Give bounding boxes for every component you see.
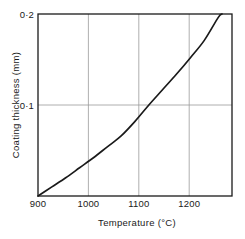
- x-tick-label-1000: 1000: [77, 198, 99, 209]
- y-axis-title: Coating thickness (mm): [10, 52, 21, 158]
- x-tick-label-1200: 1200: [178, 198, 200, 209]
- y-tick-label-0.2: 0·2: [20, 9, 34, 20]
- y-tick-label-0.1: 0·1: [20, 100, 34, 111]
- x-tick-label-900: 900: [30, 198, 46, 209]
- coating-thickness-line-chart: 0·2 0·1 900 1000 1100 1200 Temperature (…: [0, 0, 245, 239]
- x-tick-label-1100: 1100: [128, 198, 149, 209]
- x-axis-title: Temperature (°C): [98, 217, 176, 228]
- chart-figure: 0·2 0·1 900 1000 1100 1200 Temperature (…: [0, 0, 245, 239]
